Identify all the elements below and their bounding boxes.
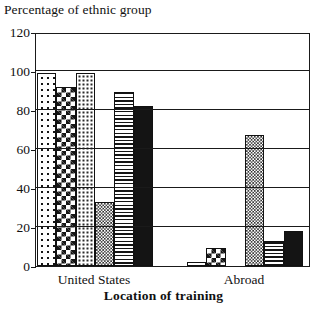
gridline (36, 70, 309, 71)
y-axis-tick-label: 80 (0, 103, 30, 119)
y-axis-tick (31, 150, 36, 151)
y-axis-tick-label: 100 (0, 64, 30, 80)
bar (245, 135, 264, 266)
bar (114, 92, 133, 266)
bar (187, 262, 206, 266)
bar (37, 73, 56, 266)
y-axis-tick (31, 72, 36, 73)
y-axis-tick-label: 120 (0, 25, 30, 41)
y-axis-tick (31, 111, 36, 112)
gridline (36, 148, 309, 149)
y-axis-tick (31, 267, 36, 268)
gridline (36, 109, 309, 110)
bar (264, 241, 283, 266)
y-axis-tick-label: 20 (0, 220, 30, 236)
y-axis-title: Percentage of ethnic group (4, 2, 152, 18)
bar (56, 87, 75, 266)
bar-chart: Percentage of ethnic group 0204060801001… (0, 0, 327, 309)
bar (206, 248, 225, 266)
bar (95, 202, 114, 266)
bar (76, 73, 95, 266)
y-axis-tick-label: 40 (0, 181, 30, 197)
gridline (36, 226, 309, 227)
x-axis-title: Location of training (0, 288, 327, 304)
x-axis-group-label: United States (36, 272, 152, 288)
y-axis-tick-label: 60 (0, 142, 30, 158)
y-axis-tick (31, 33, 36, 34)
bar (284, 231, 303, 266)
y-axis-tick-label: 0 (0, 259, 30, 275)
y-axis-tick (31, 189, 36, 190)
y-axis-tick (31, 228, 36, 229)
gridline (36, 187, 309, 188)
bars-layer (36, 34, 309, 266)
plot-area (35, 33, 310, 267)
x-axis-group-label: Abroad (186, 272, 302, 288)
